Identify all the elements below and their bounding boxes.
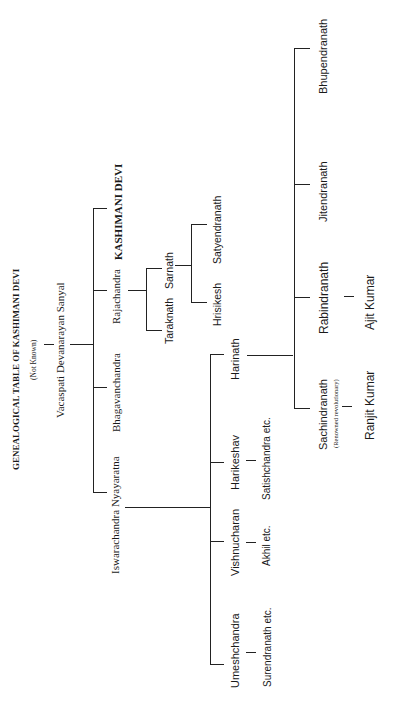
connector xyxy=(191,302,207,303)
connector xyxy=(128,290,146,291)
person-rajachandra: Rajachandra xyxy=(111,269,122,324)
person-iswarachandra: Iswarachandra Nyayaratna xyxy=(110,456,121,574)
connector xyxy=(93,208,107,209)
connector xyxy=(210,354,224,355)
person-bhupendranath: Bhupendranath xyxy=(318,19,329,94)
person-ranjit-kumar: Ranjit Kumar xyxy=(364,371,376,440)
connector xyxy=(70,344,93,345)
connector xyxy=(294,408,310,409)
connector xyxy=(191,224,207,225)
person-jitendranath: Jitendranath xyxy=(318,161,329,222)
connector xyxy=(146,268,147,330)
connector xyxy=(210,541,224,542)
person-harikeshav: Harikeshav xyxy=(230,435,241,490)
person-taraknath: Taraknath xyxy=(164,298,175,344)
person-satyendranath: Satyendranath xyxy=(212,196,223,264)
person-ajit-kumar: Ajit Kumar xyxy=(364,275,376,330)
connector xyxy=(44,344,54,345)
connector xyxy=(146,268,162,269)
person-harinath: Harinath xyxy=(230,338,241,380)
connector xyxy=(93,387,107,388)
note-renowned-revolutionary: (Renowned revolutionary) xyxy=(333,379,340,448)
person-satishchandra: Satishchandra etc. xyxy=(262,417,272,500)
connector xyxy=(210,354,211,664)
connector xyxy=(344,296,354,297)
connector xyxy=(294,48,310,49)
connector xyxy=(210,462,224,463)
connector xyxy=(146,330,162,331)
connector xyxy=(125,507,210,508)
person-sachindranath: Sachindranath xyxy=(318,379,329,450)
connector xyxy=(175,265,191,266)
connector xyxy=(294,297,310,298)
connector xyxy=(246,460,256,461)
person-akhil: Akhil etc. xyxy=(262,525,272,566)
person-hrisikesh: Hrisikesh xyxy=(212,283,223,326)
connector xyxy=(246,542,256,543)
connector xyxy=(247,355,293,356)
person-sarnath: Sarnath xyxy=(164,252,175,289)
connector xyxy=(246,652,256,653)
person-bhagavanchandra: Bhagavanchandra xyxy=(111,353,122,432)
connector xyxy=(210,664,224,665)
person-kashimani-devi: KASHIMANI DEVI xyxy=(113,164,124,260)
person-umeshchandra: Umeshchandra xyxy=(230,613,241,688)
connector xyxy=(191,224,192,302)
person-vishnucharan: Vishnucharan xyxy=(230,509,241,576)
connector xyxy=(294,48,295,408)
connector xyxy=(93,208,94,492)
connector xyxy=(93,290,107,291)
chart-title: GENEALOGICAL TABLE OF KASHIMANI DEVI xyxy=(12,269,21,470)
root-note: (Not Known) xyxy=(30,340,38,380)
connector xyxy=(342,406,352,407)
person-vacaspati: Vacaspati Devanarayan Sanyal xyxy=(55,282,66,418)
connector xyxy=(294,184,310,185)
person-surendranath: Surendranath etc. xyxy=(263,608,273,688)
person-rabindranath: Rabindranath xyxy=(318,262,330,334)
connector xyxy=(93,492,107,493)
